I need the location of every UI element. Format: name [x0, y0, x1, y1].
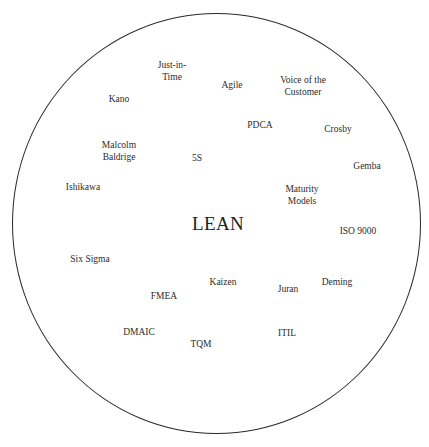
term-line: 5S: [192, 153, 202, 165]
term-agile: Agile: [221, 80, 242, 92]
term-iso-9000: ISO 9000: [340, 226, 377, 238]
term-line: Six Sigma: [70, 254, 109, 266]
term-line: Time: [158, 71, 187, 83]
term-line: Kaizen: [210, 277, 237, 289]
term-line: Deming: [322, 277, 353, 289]
term-5s: 5S: [192, 153, 202, 165]
term-just-in-time: Just-in- Time: [158, 60, 187, 83]
term-line: Juran: [278, 284, 299, 296]
term-line: Maturity: [285, 184, 318, 196]
term-voice-of-the-customer: Voice of the Customer: [280, 75, 326, 98]
term-line: PDCA: [247, 120, 272, 132]
term-pdca: PDCA: [247, 120, 272, 132]
term-tqm: TQM: [190, 339, 211, 351]
term-gemba: Gemba: [353, 161, 380, 173]
term-maturity-models: Maturity Models: [285, 184, 318, 207]
term-line: Agile: [221, 80, 242, 92]
term-line: ISO 9000: [340, 226, 377, 238]
term-juran: Juran: [278, 284, 299, 296]
term-line: Ishikawa: [66, 182, 100, 194]
term-ishikawa: Ishikawa: [66, 182, 100, 194]
term-line: Models: [285, 195, 318, 207]
term-line: Just-in-: [158, 60, 187, 72]
term-line: FMEA: [151, 291, 177, 303]
term-crosby: Crosby: [324, 124, 351, 136]
lean-concept-diagram: LEAN Just-in- Time Agile Voice of the Cu…: [0, 0, 429, 447]
term-line: Baldrige: [102, 151, 136, 163]
term-line: ITIL: [278, 328, 296, 340]
term-six-sigma: Six Sigma: [70, 254, 109, 266]
term-itil: ITIL: [278, 328, 296, 340]
term-line: Gemba: [353, 161, 380, 173]
term-fmea: FMEA: [151, 291, 177, 303]
term-line: Crosby: [324, 124, 351, 136]
term-deming: Deming: [322, 277, 353, 289]
term-line: Kano: [109, 94, 130, 106]
term-line: Malcolm: [102, 140, 136, 152]
term-kaizen: Kaizen: [210, 277, 237, 289]
term-line: Customer: [280, 86, 326, 98]
term-kano: Kano: [109, 94, 130, 106]
term-line: DMAIC: [123, 327, 155, 339]
center-label-lean: LEAN: [192, 214, 244, 234]
term-line: TQM: [190, 339, 211, 351]
term-malcolm-baldrige: Malcolm Baldrige: [102, 140, 136, 163]
term-dmaic: DMAIC: [123, 327, 155, 339]
term-line: Voice of the: [280, 75, 326, 87]
